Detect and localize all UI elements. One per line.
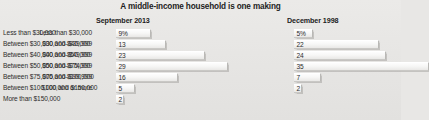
- bar-category-label: $75,000–$99,999: [42, 73, 92, 80]
- bar-track: 16: [116, 73, 178, 83]
- bar-track: 5: [116, 84, 135, 94]
- bar-value-label: 22: [297, 41, 304, 48]
- bar-track: 23: [116, 51, 205, 61]
- bar-value-label: 16: [119, 74, 126, 81]
- bar-value-label: 23: [119, 52, 126, 59]
- bar-track: 24: [294, 51, 386, 61]
- bar-value-label: 24: [297, 52, 304, 59]
- bar-track: 13: [116, 40, 166, 50]
- bar-category-label: Less than $30,000: [39, 29, 92, 36]
- bar-category-label: $40,000–$49,999: [42, 51, 92, 58]
- bar-track: 29: [116, 62, 228, 72]
- bar-track: 35: [294, 62, 429, 72]
- bar-september-2013-2: [116, 51, 205, 61]
- bar-value-label: 2: [119, 96, 123, 103]
- bar-value-label: 13: [119, 41, 126, 48]
- bar-value-label: 9%: [119, 30, 128, 37]
- bar-category-label: More than $150,000: [3, 95, 60, 102]
- bar-category-label: $100,000 or more: [42, 84, 92, 91]
- panel-header-december-1998: December 1998: [287, 16, 338, 25]
- bar-value-label: 29: [119, 63, 126, 70]
- bar-december-1998-1: [294, 40, 379, 50]
- bar-track: 9%: [116, 29, 151, 39]
- bar-december-1998-3: [294, 62, 429, 72]
- bar-value-label: 5%: [297, 30, 306, 37]
- bar-track: 2: [116, 95, 124, 105]
- bar-september-2013-3: [116, 62, 228, 72]
- bar-december-1998-2: [294, 51, 386, 61]
- chart-title: A middle-income household is one making: [0, 2, 401, 11]
- bar-track: 7: [294, 73, 321, 83]
- bar-value-label: 35: [297, 63, 304, 70]
- bar-category-label: $50,000–$74,999: [42, 62, 92, 69]
- bar-value-label: 7: [297, 74, 301, 81]
- bar-value-label: 5: [119, 85, 123, 92]
- bar-value-label: 2: [297, 85, 301, 92]
- panel-header-september-2013: September 2013: [96, 16, 150, 25]
- bar-category-label: $30,000–$39,999: [42, 40, 92, 47]
- bar-track: 5%: [294, 29, 313, 39]
- bar-track: 22: [294, 40, 379, 50]
- bar-track: 2: [294, 84, 302, 94]
